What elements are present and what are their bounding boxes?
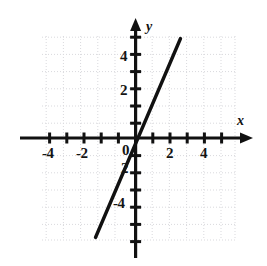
y-tick-label-neg2: 2 <box>121 161 128 176</box>
y-tick-label-pos4: 4 <box>120 49 127 64</box>
x-tick-label-pos4: 4 <box>200 146 207 161</box>
y-tick-label-neg4: -4 <box>113 196 125 211</box>
coordinate-plane-figure: -4 -2 2 4 4 2 2 -4 0 y x <box>0 0 267 266</box>
y-tick-label-pos2: 2 <box>120 83 127 98</box>
y-axis-label: y <box>146 20 152 34</box>
x-tick-label-neg2: -2 <box>76 146 88 161</box>
x-tick-label-neg4: -4 <box>42 146 54 161</box>
graph-canvas <box>0 0 267 266</box>
origin-label: 0 <box>122 143 129 158</box>
x-tick-label-pos2: 2 <box>166 146 173 161</box>
x-axis-label: x <box>237 114 244 128</box>
